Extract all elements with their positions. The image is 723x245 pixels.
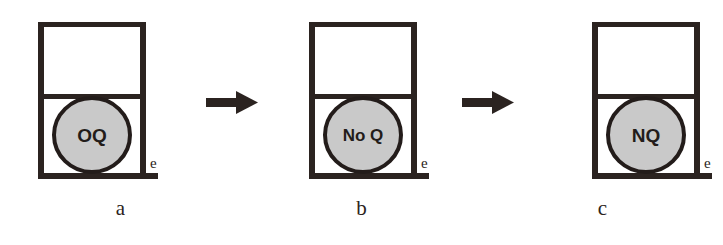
container-top-wall bbox=[309, 22, 417, 27]
baseline-e-line bbox=[38, 173, 158, 179]
species-ellipse-label: OQ bbox=[77, 125, 107, 146]
baseline-e-line bbox=[592, 173, 712, 179]
baseline-label-e: e bbox=[421, 155, 428, 171]
panel-a: OQ e a bbox=[0, 0, 241, 245]
container-left-wall bbox=[38, 22, 44, 178]
panel-b-caption: b bbox=[241, 198, 482, 219]
baseline-label-e: e bbox=[704, 155, 711, 171]
container-left-wall bbox=[309, 22, 315, 178]
panel-c: NQ e c bbox=[482, 0, 723, 245]
container-top-wall bbox=[38, 22, 146, 27]
panel-b: No Q e b bbox=[241, 0, 482, 245]
baseline-e-line bbox=[309, 173, 429, 179]
container-left-wall bbox=[592, 22, 598, 178]
container-top-wall bbox=[592, 22, 700, 27]
panel-c-caption: c bbox=[482, 198, 723, 219]
baseline-label-e: e bbox=[150, 155, 157, 171]
process-sequence-figure: OQ e a No Q e b bbox=[0, 0, 723, 245]
species-ellipse-label: No Q bbox=[343, 126, 384, 145]
species-ellipse-label: NQ bbox=[632, 125, 661, 146]
panel-a-caption: a bbox=[0, 198, 241, 219]
